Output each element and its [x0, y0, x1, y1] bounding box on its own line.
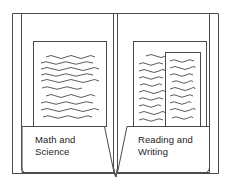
- right-paper-front: [166, 53, 201, 127]
- left-paper-back: [34, 42, 107, 127]
- left-pocket-label: Math and Science: [35, 134, 105, 158]
- folder-drawing: [0, 0, 231, 187]
- right-pocket-label: Reading and Writing: [138, 134, 214, 158]
- folder-illustration: Math and Science Reading and Writing: [0, 0, 231, 187]
